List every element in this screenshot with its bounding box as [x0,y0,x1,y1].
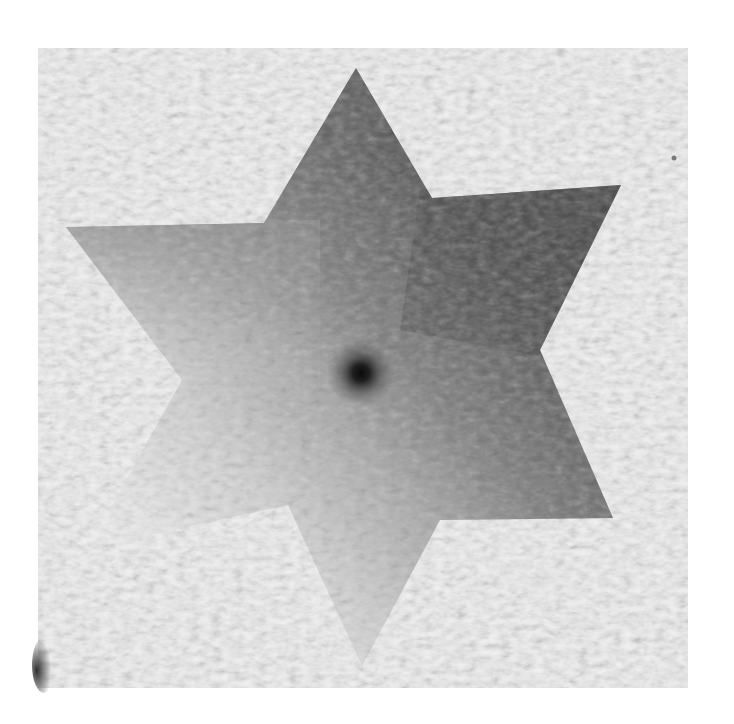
paper-speck [672,156,677,161]
corner-smudge [32,637,56,693]
center-dark-spot [327,339,395,407]
watercolor-star-photo [0,0,734,724]
photo: Grayscale watercolor six-pointed star pa… [0,0,734,724]
